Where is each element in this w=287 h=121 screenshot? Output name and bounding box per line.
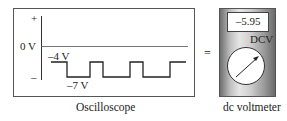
voltmeter-caption: dc voltmeter bbox=[223, 101, 281, 113]
